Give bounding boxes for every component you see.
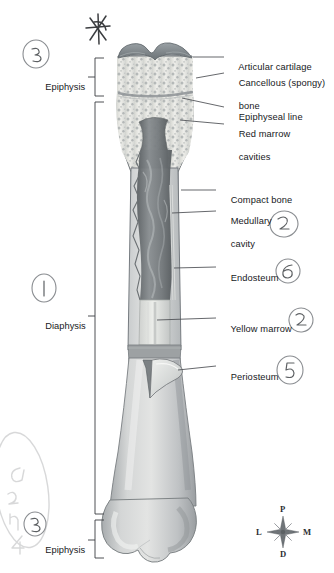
callout-cancellous-bone-text: Cancellous (spongy) xyxy=(239,78,326,88)
callout-periosteum-text: Periosteum xyxy=(231,372,279,382)
orientation-compass-rose xyxy=(267,516,299,548)
compass-label-medial: M xyxy=(303,527,311,537)
callout-endosteum: Endosteum xyxy=(220,262,279,296)
handwritten-circled-3-top-mark xyxy=(23,40,49,68)
bracket-label-epiphysis-proximal-text: Epiphysis xyxy=(45,82,85,92)
compass-label-distal: D xyxy=(280,549,286,559)
bracket-label-diaphysis: Diaphysis xyxy=(35,310,86,343)
callout-periosteum: Periosteum xyxy=(220,361,279,395)
callout-yellow-marrow: Yellow marrow xyxy=(220,313,292,347)
compass-label-distal-text: D xyxy=(280,549,286,559)
diaphysis-shaft xyxy=(128,150,181,362)
callout-endosteum-text: Endosteum xyxy=(231,273,279,283)
measurement-brackets xyxy=(88,58,104,558)
handwritten-star-icon xyxy=(86,14,110,44)
handwritten-circled-6-endosteum-mark xyxy=(276,259,300,283)
compass-label-lateral-text: L xyxy=(256,527,262,537)
bracket-label-epiphysis-proximal: Epiphysis xyxy=(35,71,85,104)
distal-shaft xyxy=(110,358,196,506)
callout-yellow-marrow-text: Yellow marrow xyxy=(231,324,292,334)
callout-medullary-cavity: Medullary cavity xyxy=(220,205,272,261)
handwritten-circled-5-periosteum-mark xyxy=(277,356,303,384)
compass-label-posterior: P xyxy=(280,504,285,514)
callout-red-marrow-cavities: Red marrow cavities xyxy=(228,118,290,174)
bone-diagram-figure: Articular cartilage Cancellous (spongy) … xyxy=(0,0,334,573)
bracket-label-diaphysis-text: Diaphysis xyxy=(45,321,85,331)
compass-label-medial-text: M xyxy=(303,527,311,537)
compass-label-lateral: L xyxy=(256,527,262,537)
callout-red-marrow-text: Red marrow xyxy=(239,129,291,139)
callout-medullary-cavity-text: Medullary xyxy=(231,216,272,226)
bracket-label-epiphysis-distal-text: Epiphysis xyxy=(45,545,85,555)
compass-label-posterior-text: P xyxy=(280,504,285,514)
bracket-label-epiphysis-distal: Epiphysis xyxy=(35,534,85,567)
callout-compact-bone-text: Compact bone xyxy=(231,195,293,205)
callout-medullary-cavity-text2: cavity xyxy=(231,239,255,249)
distal-epiphysis xyxy=(102,498,197,562)
handwritten-circled-1-mark xyxy=(32,274,56,302)
handwritten-circled-3-bottom-mark xyxy=(24,512,46,536)
callout-red-marrow-text2: cavities xyxy=(239,152,271,162)
